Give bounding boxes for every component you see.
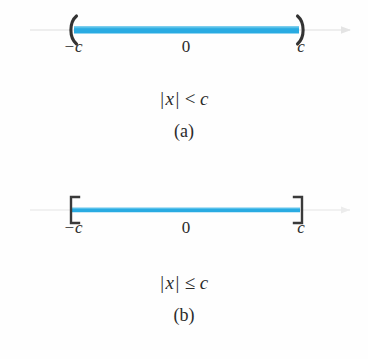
panel-letter-b: (b)	[0, 305, 368, 326]
tick-label-zero-a: 0	[160, 38, 212, 55]
formula-b-variable: x	[166, 272, 175, 293]
tick-label-zero-b: 0	[160, 219, 212, 236]
caption-a: |x|<c (a)	[0, 88, 368, 142]
formula-b-close-bar: |	[175, 272, 181, 293]
number-line-a: −c 0 c	[0, 0, 368, 66]
panel-letter-a: (a)	[0, 121, 368, 142]
figure-panel-b: −c 0 c |x|≤c (b)	[0, 180, 368, 359]
caption-b: |x|≤c (b)	[0, 272, 368, 326]
tick-label-c-b: c	[275, 219, 327, 236]
axis-arrow-right-a	[341, 26, 351, 34]
formula-b: |x|≤c	[0, 272, 368, 294]
number-line-a-graphic	[0, 0, 368, 66]
formula-a: |x|<c	[0, 88, 368, 110]
tick-label-negative-c-a: −c	[47, 38, 99, 55]
figure-panel-a: −c 0 c |x|<c (a)	[0, 0, 368, 180]
number-line-b: −c 0 c	[0, 180, 368, 246]
formula-a-bound: c	[200, 88, 209, 109]
formula-b-bound: c	[200, 272, 209, 293]
axis-arrow-right-b	[341, 207, 350, 214]
tick-label-c-a: c	[275, 38, 327, 55]
formula-a-relation: <	[181, 88, 200, 109]
tick-label-negative-c-b: −c	[47, 219, 99, 236]
formula-b-relation: ≤	[181, 272, 200, 293]
formula-a-close-bar: |	[174, 88, 180, 109]
